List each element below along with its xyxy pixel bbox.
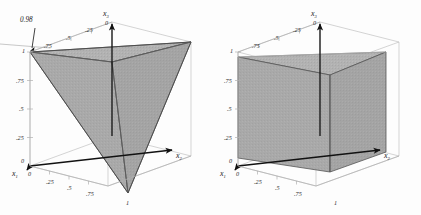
right-tick-vertical-0: 1 <box>230 47 233 54</box>
left-tick-vertical-3: .25 <box>16 134 24 141</box>
right-tick-depth-2: .25 <box>293 26 301 33</box>
right-tick-depth-0: .75 <box>252 42 260 49</box>
left-tick-bottom-3: .75 <box>86 190 94 197</box>
left-tick-bottom-2: .5 <box>67 184 72 191</box>
figure-container: 0.98 1 .75 .5 .25 0 .75 .5 .25 0 0 .25 .… <box>0 0 421 215</box>
left-tick-depth-2: .25 <box>85 26 93 33</box>
right-axis-label-x2: x2 <box>383 151 391 161</box>
left-tick-bottom-1: .25 <box>46 178 54 185</box>
left-tick-vertical-2: .5 <box>19 105 24 112</box>
right-tick-vertical-4: 0 <box>229 157 233 164</box>
right-tick-bottom-3: .75 <box>294 190 302 197</box>
right-axis-label-x3: x3 <box>310 9 318 19</box>
left-axis-label-x2: x2 <box>175 151 183 161</box>
left-tick-vertical-1: .75 <box>16 77 24 84</box>
right-axis-label-x1: x1 <box>219 169 226 179</box>
left-tick-depth-1: .5 <box>66 34 71 41</box>
left-tick-vertical-0: 1 <box>22 47 25 54</box>
right-tick-bottom-0: 0 <box>236 170 240 177</box>
figure-svg: 0.98 1 .75 .5 .25 0 .75 .5 .25 0 0 .25 .… <box>0 0 421 215</box>
left-tetrahedron-solid <box>30 42 191 193</box>
left-callout-leader <box>32 28 35 48</box>
right-tick-bottom-2: .5 <box>275 184 280 191</box>
left-tick-bottom-0: 0 <box>28 170 32 177</box>
right-tick-depth-3: 0 <box>313 19 317 26</box>
left-axis-label-x3: x3 <box>102 9 110 19</box>
left-axis-label-x1: x1 <box>11 169 18 179</box>
right-tick-vertical-1: .75 <box>224 77 232 84</box>
left-tick-depth-3: 0 <box>105 19 109 26</box>
left-tick-depth-0: .75 <box>44 42 52 49</box>
right-tick-vertical-3: .25 <box>224 134 232 141</box>
left-tick-bottom-4: 1 <box>126 199 129 206</box>
right-tick-depth-1: .5 <box>274 34 279 41</box>
left-tick-vertical-4: 0 <box>21 157 25 164</box>
right-tick-bottom-4: 1 <box>334 199 337 206</box>
left-vertical-scale <box>27 52 33 166</box>
left-callout-label: 0.98 <box>20 16 33 24</box>
right-tick-vertical-2: .5 <box>227 105 232 112</box>
right-tick-bottom-1: .25 <box>254 178 262 185</box>
